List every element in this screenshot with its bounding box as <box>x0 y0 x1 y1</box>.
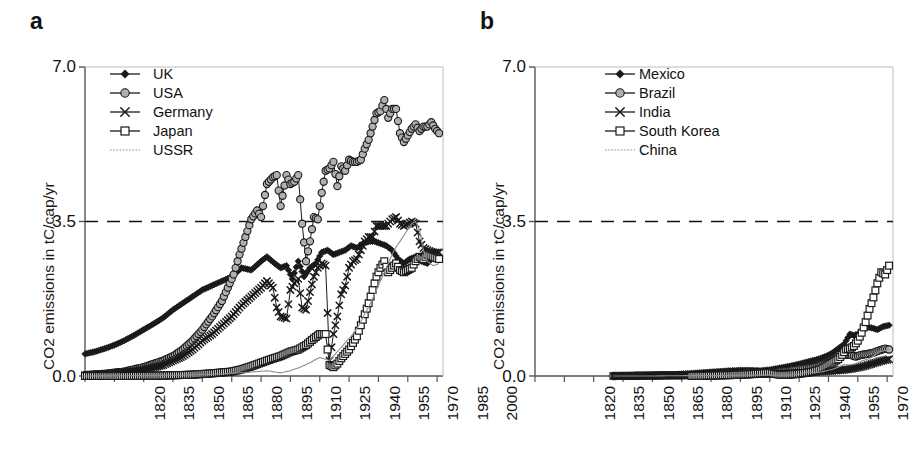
legend-item-india: India <box>603 102 720 121</box>
xtick-1925: 1925 <box>357 386 373 446</box>
legend-item-brazil: Brazil <box>603 83 720 102</box>
series-germany <box>82 214 442 378</box>
xtick-1820: 1820 <box>602 386 618 446</box>
series-uk <box>82 238 443 357</box>
legend-item-japan: Japan <box>108 121 213 140</box>
xtick-1865: 1865 <box>690 386 706 446</box>
filled-diamond-marker <box>603 66 637 82</box>
xtick-1880: 1880 <box>719 386 735 446</box>
xtick-1835: 1835 <box>181 386 197 446</box>
xtick-1850: 1850 <box>661 386 677 446</box>
xtick-1940: 1940 <box>387 386 403 446</box>
xtick-1865: 1865 <box>240 386 256 446</box>
legend-label: USSR <box>142 142 193 158</box>
panel-b: b CO2 emissions in tC/cap/yr 0.0 3.5 7.0… <box>453 0 913 467</box>
legend-item-germany: Germany <box>108 102 213 121</box>
xtick-1820: 1820 <box>152 386 168 446</box>
series-south-korea <box>688 262 892 379</box>
filled-diamond-marker <box>108 66 142 82</box>
legend-label: Japan <box>142 123 193 139</box>
legend-item-south-korea: South Korea <box>603 121 720 140</box>
xtick-1895: 1895 <box>299 386 315 446</box>
legend-label: Mexico <box>637 66 685 82</box>
xtick-1835: 1835 <box>631 386 647 446</box>
xtick-1970: 1970 <box>895 386 911 446</box>
cross-x-marker <box>108 104 142 120</box>
series-japan <box>82 251 443 379</box>
xtick-1955: 1955 <box>416 386 432 446</box>
legend-label: China <box>637 142 677 158</box>
panel-a: a CO2 emissions in tC/cap/yr 0.0 3.5 7.0… <box>0 0 460 467</box>
legend-label: Brazil <box>637 85 675 101</box>
open-square-marker <box>108 123 142 139</box>
legend-label: South Korea <box>637 123 720 139</box>
gray-circle-marker <box>108 85 142 101</box>
legend-item-uk: UK <box>108 64 213 83</box>
xtick-1955: 1955 <box>866 386 882 446</box>
xtick-1910: 1910 <box>778 386 794 446</box>
legend-item-usa: USA <box>108 83 213 102</box>
open-square-marker <box>603 123 637 139</box>
legend-label: UK <box>142 66 173 82</box>
xtick-1850: 1850 <box>211 386 227 446</box>
panel-a-legend: UKUSAGermanyJapanUSSR <box>108 64 213 159</box>
legend-label: USA <box>142 85 183 101</box>
xtick-1925: 1925 <box>807 386 823 446</box>
xtick-1910: 1910 <box>328 386 344 446</box>
xtick-1940: 1940 <box>837 386 853 446</box>
xtick-1880: 1880 <box>269 386 285 446</box>
xtick-1895: 1895 <box>749 386 765 446</box>
legend-item-mexico: Mexico <box>603 64 720 83</box>
dotted-line-marker <box>603 142 637 158</box>
legend-item-china: China <box>603 140 720 159</box>
legend-label: Germany <box>142 104 213 120</box>
cross-x-marker <box>603 104 637 120</box>
legend-item-ussr: USSR <box>108 140 213 159</box>
figure-co2-emissions-per-capita: a CO2 emissions in tC/cap/yr 0.0 3.5 7.0… <box>0 0 913 467</box>
legend-label: India <box>637 104 670 120</box>
gray-circle-marker <box>603 85 637 101</box>
dotted-line-marker <box>108 142 142 158</box>
panel-b-legend: MexicoBrazilIndiaSouth KoreaChina <box>603 64 720 159</box>
